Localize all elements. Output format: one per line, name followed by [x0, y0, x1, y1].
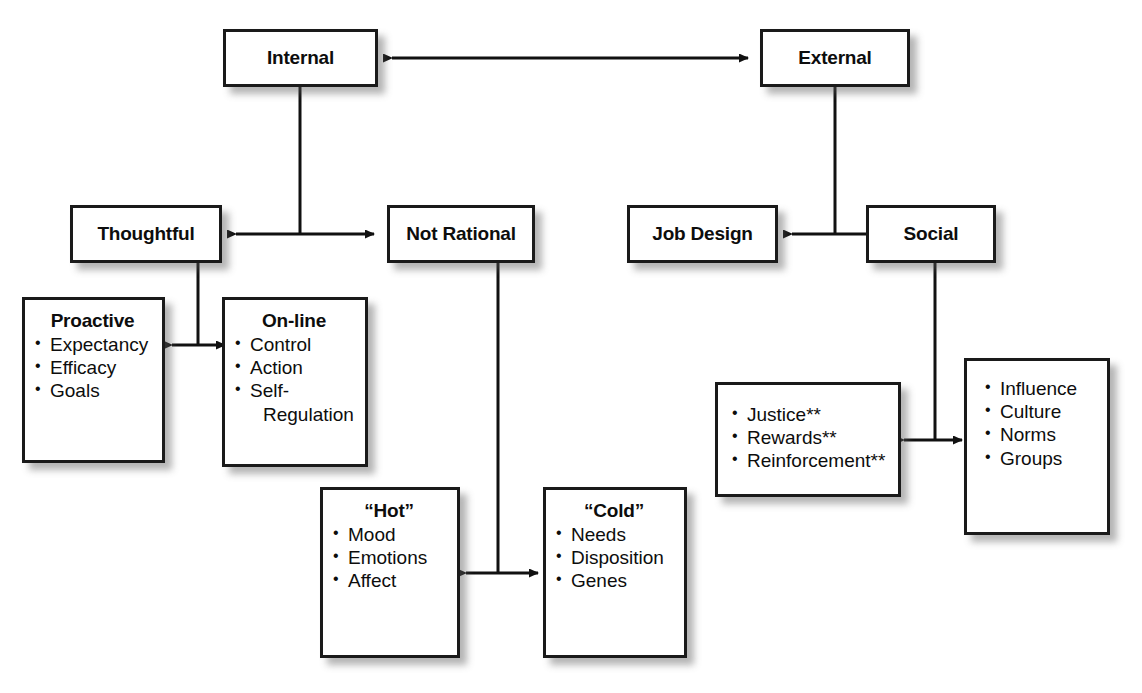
- list-item: Culture: [985, 400, 1101, 423]
- node-online-label: On-line: [235, 310, 359, 332]
- list-item-text: Self-: [250, 380, 289, 401]
- list-item: Affect: [333, 569, 451, 592]
- node-not-rational-label: Not Rational: [406, 223, 516, 245]
- node-influence-list: Influence Culture Norms Groups: [985, 377, 1101, 470]
- node-justice-list: Justice** Rewards** Reinforcement**: [732, 403, 892, 473]
- node-influence[interactable]: Influence Culture Norms Groups: [964, 358, 1110, 535]
- list-item: Action: [235, 356, 359, 379]
- diagram-canvas: Internal External Thoughtful Not Rationa…: [0, 0, 1142, 693]
- list-item: Mood: [333, 523, 451, 546]
- connector-social-split: [904, 263, 962, 440]
- list-item: Justice**: [732, 403, 892, 426]
- list-item: Self-Regulation: [235, 379, 359, 425]
- list-item: Influence: [985, 377, 1101, 400]
- node-online-list: Control Action Self-Regulation: [235, 333, 359, 426]
- node-external-label: External: [798, 47, 871, 69]
- node-external[interactable]: External: [760, 29, 910, 87]
- node-proactive-list: Expectancy Efficacy Goals: [35, 333, 156, 403]
- list-item: Efficacy: [35, 356, 156, 379]
- node-social[interactable]: Social: [866, 205, 996, 263]
- list-item: Expectancy: [35, 333, 156, 356]
- node-job-design[interactable]: Job Design: [627, 205, 778, 263]
- connector-notrational-split: [466, 263, 538, 573]
- list-item: Needs: [556, 523, 678, 546]
- node-internal-label: Internal: [267, 47, 334, 69]
- node-thoughtful-label: Thoughtful: [97, 223, 194, 245]
- node-hot-label: “Hot”: [333, 500, 451, 522]
- node-hot-list: Mood Emotions Affect: [333, 523, 451, 593]
- list-item: Rewards**: [732, 426, 892, 449]
- list-item: Norms: [985, 423, 1101, 446]
- list-item: Emotions: [333, 546, 451, 569]
- list-item: Goals: [35, 379, 156, 402]
- node-social-label: Social: [904, 223, 959, 245]
- node-online[interactable]: On-line Control Action Self-Regulation: [222, 297, 368, 467]
- node-internal[interactable]: Internal: [223, 29, 378, 87]
- node-thoughtful[interactable]: Thoughtful: [70, 205, 222, 263]
- list-item-continuation: Regulation: [250, 403, 359, 426]
- node-proactive[interactable]: Proactive Expectancy Efficacy Goals: [22, 297, 165, 463]
- connector-thoughtful-split: [172, 263, 225, 345]
- list-item: Control: [235, 333, 359, 356]
- node-proactive-label: Proactive: [35, 310, 156, 332]
- node-job-design-label: Job Design: [652, 223, 752, 245]
- node-not-rational[interactable]: Not Rational: [387, 205, 535, 263]
- connector-internal-split: [236, 86, 374, 234]
- node-hot[interactable]: “Hot” Mood Emotions Affect: [320, 487, 460, 658]
- list-item: Reinforcement**: [732, 449, 892, 472]
- list-item: Disposition: [556, 546, 678, 569]
- node-cold-label: “Cold”: [556, 500, 678, 522]
- list-item: Groups: [985, 447, 1101, 470]
- node-cold[interactable]: “Cold” Needs Disposition Genes: [543, 487, 687, 658]
- node-justice[interactable]: Justice** Rewards** Reinforcement**: [715, 382, 901, 497]
- node-cold-list: Needs Disposition Genes: [556, 523, 678, 593]
- list-item: Genes: [556, 569, 678, 592]
